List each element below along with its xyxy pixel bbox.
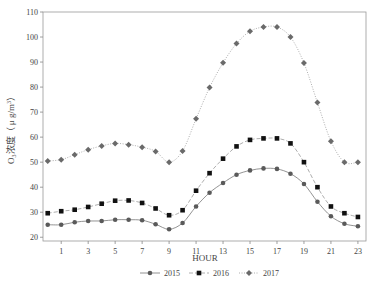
data-point: [301, 60, 307, 66]
data-point: [72, 220, 77, 225]
data-point: [180, 148, 186, 154]
y-tick-label: 90: [30, 58, 38, 67]
legend-label: 2017: [263, 269, 279, 278]
data-point: [302, 182, 307, 187]
y-tick-label: 80: [30, 83, 38, 92]
data-point: [234, 144, 239, 149]
x-axis-label: HOUR: [192, 253, 218, 263]
x-tick-label: 17: [273, 247, 281, 256]
data-point: [166, 159, 172, 165]
data-point: [207, 85, 213, 91]
data-point: [153, 206, 158, 211]
x-tick-label: 13: [219, 247, 227, 256]
legend-marker: [197, 271, 202, 276]
data-point: [275, 136, 280, 141]
data-point: [207, 171, 212, 176]
data-point: [139, 144, 145, 150]
data-point: [72, 207, 77, 212]
data-point: [45, 158, 51, 164]
data-point: [126, 142, 132, 148]
legend-item-2015: 2015: [140, 269, 180, 278]
o3-concentration-line-chart: 2030405060708090100110 13579111315171921…: [0, 0, 376, 285]
x-tick-label: 15: [246, 247, 254, 256]
data-point: [328, 138, 334, 144]
series-line-2016: [48, 138, 358, 217]
legend-item-2016: 2016: [189, 269, 229, 278]
plot-area: [43, 12, 366, 241]
data-point: [207, 190, 212, 195]
data-point: [355, 159, 361, 165]
series-layer: [45, 24, 361, 232]
data-point: [329, 204, 334, 209]
data-point: [261, 136, 266, 141]
data-point: [275, 167, 280, 172]
plot-border: [43, 12, 366, 241]
y-tick-label: 70: [30, 108, 38, 117]
x-tick-label: 5: [113, 247, 117, 256]
legend-item-2017: 2017: [239, 269, 279, 278]
data-point: [234, 172, 239, 177]
x-tick-label: 1: [59, 247, 63, 256]
y-tick-label: 40: [30, 183, 38, 192]
data-point: [288, 141, 293, 146]
y-tick-label: 110: [26, 8, 38, 17]
data-point: [329, 214, 334, 219]
data-point: [45, 222, 50, 227]
data-point: [221, 156, 226, 161]
data-point: [288, 171, 293, 176]
legend-label: 2016: [213, 269, 229, 278]
x-tick-label: 9: [167, 247, 171, 256]
data-point: [86, 205, 91, 210]
data-point: [140, 218, 145, 223]
data-point: [113, 217, 118, 222]
x-tick-label: 23: [354, 247, 362, 256]
legend-marker: [148, 271, 153, 276]
data-point: [261, 24, 267, 30]
data-point: [315, 199, 320, 204]
data-point: [221, 181, 226, 186]
data-point: [140, 201, 145, 206]
data-point: [126, 198, 131, 203]
data-point: [302, 160, 307, 165]
data-point: [86, 219, 91, 224]
series-2015: [45, 166, 360, 231]
y-axis: 2030405060708090100110: [26, 8, 43, 242]
data-point: [315, 185, 320, 190]
data-point: [153, 148, 159, 154]
data-point: [167, 213, 172, 218]
series-line-2015: [48, 168, 358, 229]
data-point: [99, 219, 104, 224]
series-2016: [45, 136, 360, 219]
data-point: [85, 147, 91, 153]
x-tick-label: 19: [300, 247, 308, 256]
data-point: [45, 211, 50, 216]
y-tick-label: 50: [30, 158, 38, 167]
data-point: [356, 224, 361, 229]
x-tick-label: 3: [86, 247, 90, 256]
data-point: [248, 168, 253, 173]
y-tick-label: 60: [30, 133, 38, 142]
legend-marker: [246, 270, 252, 276]
series-line-2017: [48, 26, 358, 164]
y-tick-label: 100: [26, 33, 38, 42]
data-point: [248, 138, 253, 143]
data-point: [247, 28, 253, 34]
data-point: [167, 227, 172, 232]
data-point: [180, 221, 185, 226]
data-point: [59, 222, 64, 227]
data-point: [194, 188, 199, 193]
legend: 201520162017: [140, 269, 279, 278]
x-tick-label: 21: [327, 247, 335, 256]
y-tick-label: 20: [30, 233, 38, 242]
data-point: [72, 152, 78, 158]
data-point: [99, 143, 105, 149]
data-point: [126, 217, 131, 222]
data-point: [261, 166, 266, 171]
data-point: [193, 116, 199, 122]
data-point: [194, 204, 199, 209]
data-point: [99, 201, 104, 206]
data-point: [180, 208, 185, 213]
legend-label: 2015: [164, 269, 180, 278]
y-tick-label: 30: [30, 208, 38, 217]
data-point: [342, 221, 347, 226]
